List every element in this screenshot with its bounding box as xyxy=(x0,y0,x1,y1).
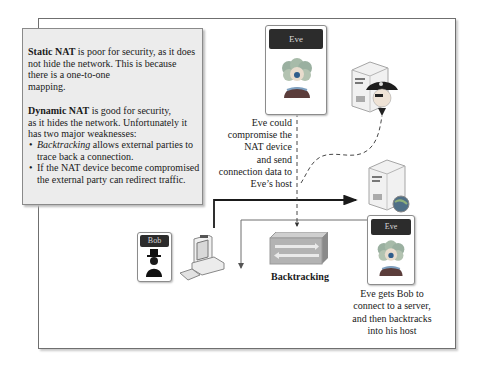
annotation-line: Eve’s host xyxy=(218,178,292,190)
dynamic-nat-paragraph: Dynamic NAT is good for security, as it … xyxy=(28,105,204,140)
weakness-text: If the NAT device become compromised xyxy=(37,162,199,173)
desktop-computer-icon xyxy=(178,235,230,283)
weakness-item-backtracking: • Backtracking allows external parties t… xyxy=(23,139,204,162)
backtracking-label: Backtracking xyxy=(265,271,335,283)
dynamic-nat-text: is good for security, xyxy=(89,105,171,116)
annotation-line: Eve gets Bob to xyxy=(348,288,436,300)
backtracking-term: Backtracking xyxy=(37,139,90,150)
static-nat-text: there is a one-to-one xyxy=(28,69,110,80)
annotation-line: compromise the xyxy=(218,129,292,141)
annotation-line: and send xyxy=(218,154,292,166)
eve-card-top: Eve xyxy=(265,25,327,115)
nat-router-icon xyxy=(268,232,330,266)
dynamic-nat-text: as it hides the network. Unfortunately i… xyxy=(28,117,187,128)
weakness-text: the external party can redirect traffic. xyxy=(37,174,186,185)
eve-avatar-icon xyxy=(375,240,407,278)
bullet-icon: • xyxy=(29,162,33,174)
eve-card-bottom: Eve xyxy=(367,215,415,285)
weakness-list: • Backtracking allows external parties t… xyxy=(23,139,204,185)
bob-card-header: Bob xyxy=(140,235,169,247)
annotation-line: into his host xyxy=(348,325,436,337)
annotation-line: NAT device xyxy=(218,141,292,153)
static-nat-paragraph: Static NAT is poor for security, as it d… xyxy=(28,46,204,92)
pirate-server-icon xyxy=(348,60,408,122)
eve-card-header: Eve xyxy=(371,219,411,235)
annotation-line: connection data to xyxy=(218,166,292,178)
eve-compromise-annotation: Eve could compromise the NAT device and … xyxy=(218,117,292,190)
weakness-text: allows external parties to xyxy=(90,139,193,150)
weakness-item-compromise: • If the NAT device become compromised t… xyxy=(23,162,204,185)
weakness-text: trace back a connection. xyxy=(37,151,134,162)
dynamic-nat-term: Dynamic NAT xyxy=(28,105,89,116)
dynamic-nat-text: has two major weaknesses: xyxy=(28,128,137,139)
bob-to-server-connection xyxy=(214,200,356,228)
bob-avatar-icon xyxy=(145,249,163,277)
static-nat-text: not hide the network. This is because xyxy=(28,58,176,69)
static-nat-term: Static NAT xyxy=(28,46,75,57)
static-nat-text: is poor for security, as it does xyxy=(75,46,195,57)
static-nat-text: mapping. xyxy=(28,81,66,92)
annotation-line: Eve could xyxy=(218,117,292,129)
annotation-line: and then backtracks xyxy=(348,313,436,325)
bullet-icon: • xyxy=(29,139,33,151)
server-globe-icon xyxy=(365,158,415,216)
annotation-line: connect to a server, xyxy=(348,300,436,312)
bob-card: Bob xyxy=(137,232,172,282)
eve-backtrack-annotation: Eve gets Bob to connect to a server, and… xyxy=(348,288,436,337)
nat-security-note: Static NAT is poor for security, as it d… xyxy=(22,28,203,205)
eve-avatar-icon xyxy=(279,58,315,100)
eve-card-header: Eve xyxy=(269,29,323,49)
